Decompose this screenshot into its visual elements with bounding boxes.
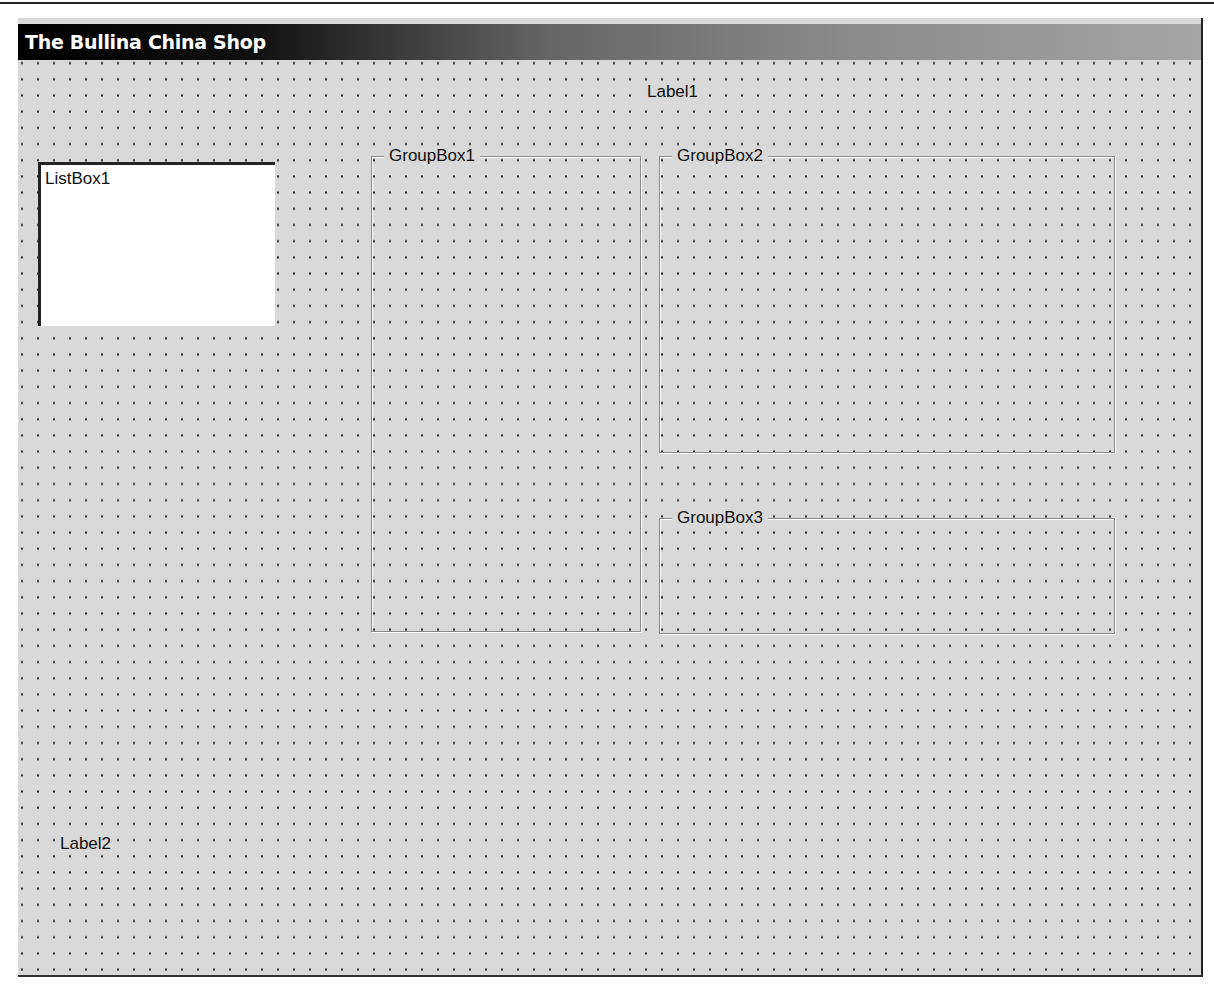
listbox1[interactable]: ListBox1 [38,162,275,326]
groupbox3[interactable]: GroupBox3 [659,518,1115,634]
label1[interactable]: Label1 [645,82,700,102]
listbox1-text: ListBox1 [45,169,110,189]
window-title: The Bullina China Shop [25,31,266,53]
groupbox1[interactable]: GroupBox1 [371,156,641,632]
groupbox2-caption: GroupBox2 [672,146,768,166]
groupbox2[interactable]: GroupBox2 [659,156,1115,453]
groupbox3-caption: GroupBox3 [672,508,768,528]
label2[interactable]: Label2 [58,834,113,854]
form-designer-window: The Bullina China Shop Label1 ListBox1 G… [18,18,1203,977]
groupbox1-caption: GroupBox1 [384,146,480,166]
window-title-bar[interactable]: The Bullina China Shop [18,24,1201,60]
top-divider [0,2,1214,4]
